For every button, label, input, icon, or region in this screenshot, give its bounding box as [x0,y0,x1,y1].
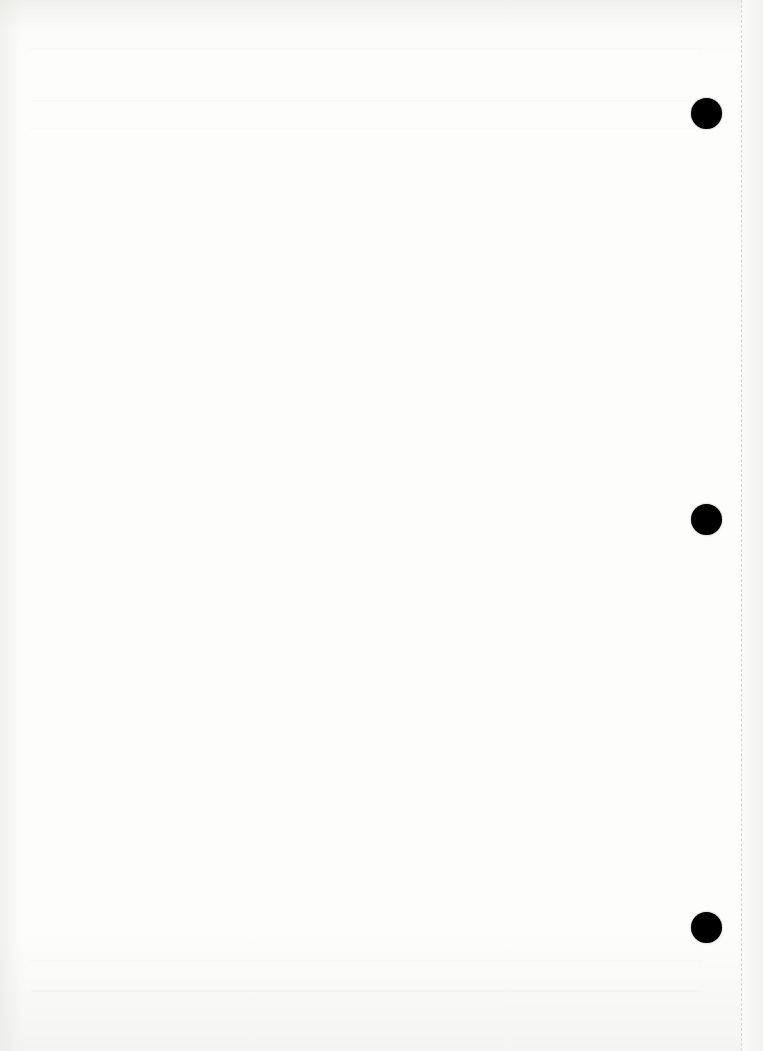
fold-line [741,0,742,1051]
show-through-text-3 [30,128,703,130]
punch-hole-bottom [691,912,722,943]
show-through-text-5 [30,990,703,992]
show-through-text-1 [30,48,703,50]
punch-hole-top [691,98,722,129]
right-margin [742,0,763,1051]
punch-hole-middle [691,504,722,535]
scanned-page [0,0,763,1051]
show-through-text-2 [30,100,703,102]
show-through-text-4 [30,960,703,962]
